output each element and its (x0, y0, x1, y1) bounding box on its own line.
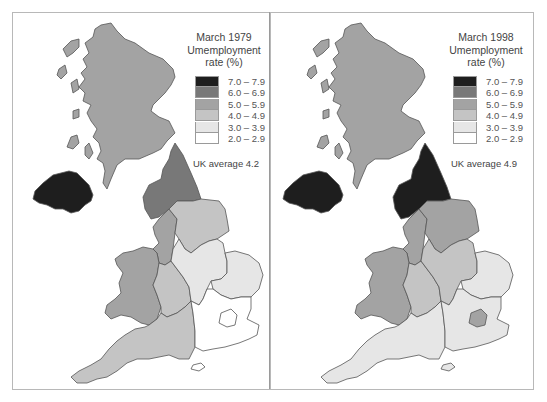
legend-title-line2: Umemployment (181, 44, 267, 57)
region-wales (355, 247, 411, 325)
region-scotland (329, 23, 425, 189)
legend-label: 7.0 – 7.9 (228, 76, 265, 87)
legend-row: 4.0 – 4.9 (453, 110, 529, 122)
legend-swatch (195, 133, 219, 144)
legend-label: 6.0 – 6.9 (486, 87, 523, 98)
legend-row: 7.0 – 7.9 (195, 76, 267, 88)
legend-title-line3: rate (%) (443, 56, 529, 69)
legend-label: 7.0 – 7.9 (486, 76, 523, 87)
legend-swatch (453, 110, 477, 121)
legend-title-line3: rate (%) (181, 56, 267, 69)
map-panel-1979: March 1979 Umemployment rate (%) 7.0 – 7… (12, 12, 271, 390)
legend-label: 2.0 – 2.9 (486, 133, 523, 144)
legend-swatch (195, 110, 219, 121)
uk-average: UK average 4.9 (451, 158, 529, 169)
legend-row: 3.0 – 3.9 (195, 122, 267, 134)
legend-swatch (453, 99, 477, 110)
legend-row: 5.0 – 5.9 (453, 99, 529, 111)
legend-row: 2.0 – 2.9 (195, 133, 267, 145)
uk-average: UK average 4.2 (193, 158, 267, 169)
legend-title-line1: March 1998 (443, 31, 529, 44)
legend-swatch (195, 99, 219, 110)
region-northern-ireland (33, 171, 93, 213)
region-wales (105, 247, 161, 325)
legend-label: 6.0 – 6.9 (228, 87, 265, 98)
map-panel-1998: March 1998 Umemployment rate (%) 7.0 – 7… (270, 12, 534, 390)
legend-label: 5.0 – 5.9 (486, 99, 523, 110)
region-scotland (79, 23, 175, 189)
legend-label: 3.0 – 3.9 (228, 122, 265, 133)
legend-swatch (453, 87, 477, 98)
legend-row: 7.0 – 7.9 (453, 76, 529, 88)
legend-row: 2.0 – 2.9 (453, 133, 529, 145)
legend-swatch (453, 76, 477, 87)
legend-swatch (195, 87, 219, 98)
legend-row: 5.0 – 5.9 (195, 99, 267, 111)
legend-1998: March 1998 Umemployment rate (%) 7.0 – 7… (443, 31, 529, 169)
legend-row: 3.0 – 3.9 (453, 122, 529, 134)
legend-label: 4.0 – 4.9 (228, 110, 265, 121)
legend-label: 3.0 – 3.9 (486, 122, 523, 133)
legend-title-line2: Umemployment (443, 44, 529, 57)
legend-title-line1: March 1979 (181, 31, 267, 44)
legend-row: 4.0 – 4.9 (195, 110, 267, 122)
region-isle-of-wight (191, 363, 205, 371)
legend-label: 4.0 – 4.9 (486, 110, 523, 121)
legend-label: 2.0 – 2.9 (228, 133, 265, 144)
legend-label: 5.0 – 5.9 (228, 99, 265, 110)
legend-swatch (453, 133, 477, 144)
legend-swatch (195, 76, 219, 87)
legend-row: 6.0 – 6.9 (195, 87, 267, 99)
legend-1979: March 1979 Umemployment rate (%) 7.0 – 7… (181, 31, 267, 169)
legend-row: 6.0 – 6.9 (453, 87, 529, 99)
legend-swatch (195, 122, 219, 133)
region-isle-of-wight (441, 363, 455, 371)
region-northern-ireland (283, 171, 343, 213)
legend-swatch (453, 122, 477, 133)
